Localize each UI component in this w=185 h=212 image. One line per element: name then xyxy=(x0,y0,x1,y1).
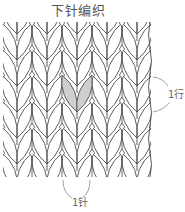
stitch-leg-right xyxy=(137,49,153,86)
stitch-knot xyxy=(0,19,5,27)
stitch-knot xyxy=(29,45,34,53)
stitch-leg-left xyxy=(92,127,108,164)
stitch-knot xyxy=(59,97,64,105)
row-bracket-upper-curve xyxy=(153,77,168,86)
stitch-leg-left xyxy=(32,101,48,138)
stitch-leg-left xyxy=(122,23,138,60)
stitch-knot xyxy=(119,0,124,1)
stitch-leg-left xyxy=(32,153,48,190)
stitch-leg-right xyxy=(137,0,153,34)
stitch-leg-left xyxy=(122,153,138,190)
stitch-leg-left xyxy=(92,153,108,190)
stitch-leg-left xyxy=(62,153,78,190)
stitch-leg-left xyxy=(92,49,108,86)
stitch-knot xyxy=(59,123,64,131)
stitch-knot xyxy=(29,149,34,157)
stitch-knot xyxy=(0,0,5,1)
stitch-leg-right xyxy=(137,101,153,138)
stitch-knot xyxy=(89,45,94,53)
stitch-leg-right xyxy=(17,75,33,112)
stitch-knot xyxy=(119,19,124,27)
stitch-leg-right xyxy=(17,0,33,34)
stitch-leg-left xyxy=(2,0,18,34)
stitch-leg-left xyxy=(2,23,18,60)
stitch-knot xyxy=(59,45,64,53)
stitch-knot xyxy=(29,71,34,79)
stitch-knot xyxy=(59,149,64,157)
stitch-knot xyxy=(89,0,94,1)
stitch-leg-left xyxy=(32,75,48,112)
stitch-knot xyxy=(0,45,5,53)
stitch-leg-left xyxy=(2,127,18,164)
knit-stitch-diagram xyxy=(0,0,185,212)
highlighted-stitch-leg-right xyxy=(77,75,93,112)
stitch-leg-left xyxy=(92,23,108,60)
stitch-leg-right xyxy=(137,127,153,164)
stitch-knot xyxy=(89,123,94,131)
stitch-leg-right xyxy=(137,75,153,112)
stitch-knot xyxy=(89,97,94,105)
stitch-leg-left xyxy=(2,49,18,86)
stitch-knot xyxy=(0,123,5,131)
stitch-leg-right xyxy=(17,49,33,86)
stitch-leg-left xyxy=(62,127,78,164)
stitch-leg-right xyxy=(47,0,63,34)
stitch-leg-right xyxy=(17,153,33,190)
stitch-leg-left xyxy=(2,153,18,190)
stitch-leg-right xyxy=(77,23,93,60)
stitch-leg-left xyxy=(92,101,108,138)
stitch-knot xyxy=(119,71,124,79)
stitch-knot xyxy=(119,45,124,53)
stitch-leg-right xyxy=(107,23,123,60)
stitch-leg-left xyxy=(32,127,48,164)
stitch-knot xyxy=(119,123,124,131)
stitch-knot xyxy=(0,149,5,157)
stitch-knot xyxy=(0,97,5,105)
stitch-knot xyxy=(0,71,5,79)
highlighted-stitch-leg-left xyxy=(62,75,78,112)
stitch-leg-left xyxy=(122,127,138,164)
stitch-leg-right xyxy=(47,127,63,164)
stitch-bracket xyxy=(63,180,90,198)
stitch-leg-right xyxy=(47,23,63,60)
stitch-leg-right xyxy=(17,23,33,60)
stitch-knot xyxy=(89,19,94,27)
row-label: 1行 xyxy=(168,89,184,101)
stitch-leg-left xyxy=(122,101,138,138)
stitch-leg-left xyxy=(32,49,48,86)
stitch-leg-left xyxy=(62,0,78,34)
stitch-leg-right xyxy=(47,153,63,190)
stitch-leg-right xyxy=(77,127,93,164)
stitch-knot xyxy=(59,19,64,27)
stitch-knot xyxy=(29,97,34,105)
stitch-leg-right xyxy=(47,49,63,86)
stitch-leg-left xyxy=(92,0,108,34)
stitch-leg-left xyxy=(122,75,138,112)
stitch-knot xyxy=(29,0,34,1)
knit-fabric xyxy=(0,0,155,212)
stitch-bracket-left-curve xyxy=(63,180,72,198)
stitch-knot xyxy=(149,0,154,1)
stitch-leg-right xyxy=(17,127,33,164)
stitch-leg-right xyxy=(107,127,123,164)
stitch-leg-right xyxy=(107,101,123,138)
stitch-knot xyxy=(29,123,34,131)
stitch-leg-left xyxy=(32,23,48,60)
stitch-leg-right xyxy=(107,0,123,34)
stitch-leg-left xyxy=(92,75,108,112)
stitch-leg-right xyxy=(137,23,153,60)
stitch-leg-right xyxy=(47,101,63,138)
stitch-leg-right xyxy=(77,0,93,34)
stitch-leg-left xyxy=(32,0,48,34)
stitch-leg-right xyxy=(107,75,123,112)
stitch-leg-right xyxy=(107,153,123,190)
stitch-bracket-right-curve xyxy=(82,180,90,198)
stitch-leg-right xyxy=(137,153,153,190)
stitch-knot xyxy=(59,0,64,1)
stitch-leg-right xyxy=(17,101,33,138)
stitch-leg-right xyxy=(107,49,123,86)
stitch-leg-left xyxy=(2,75,18,112)
stitch-knot xyxy=(119,149,124,157)
stitch-knot xyxy=(89,149,94,157)
stitch-knot xyxy=(119,97,124,105)
